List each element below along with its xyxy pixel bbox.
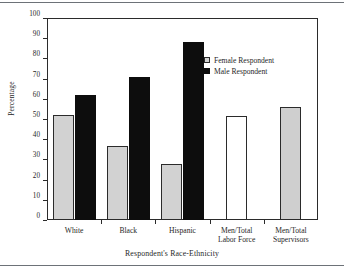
bar-black-male-respondent (129, 77, 150, 220)
y-axis-title: Percentage (7, 49, 16, 149)
legend-item: Male Respondent (204, 66, 274, 76)
figure-bottom-rule (0, 265, 344, 266)
x-axis-title: Respondent's Race-Ethnicity (0, 249, 344, 258)
bar-black-female-respondent (107, 146, 128, 220)
x-axis-tick-mark (210, 220, 211, 224)
legend-label: Male Respondent (214, 67, 267, 76)
figure-top-rule (0, 2, 344, 3)
bar-white-male-respondent (75, 95, 96, 220)
legend-item: Female Respondent (204, 55, 274, 65)
legend-swatch-icon (204, 57, 210, 63)
bar-hispanic-female-respondent (161, 164, 182, 220)
bar-white-female-respondent (53, 115, 74, 220)
bar-chart-figure: 1009080706050403020100 Percentage WhiteB… (0, 0, 344, 274)
bar-men-total-supervisors-ratio (280, 107, 301, 220)
bar-men-total-labor-force-ratio (226, 116, 247, 220)
legend-swatch-icon (204, 68, 210, 74)
legend: Female RespondentMale Respondent (204, 55, 274, 77)
legend-label: Female Respondent (214, 56, 274, 65)
x-axis-tick-mark (155, 220, 156, 224)
x-axis-tick-mark (101, 220, 102, 224)
x-axis-tick-label: Men/Total Supervisors (258, 226, 324, 245)
x-axis-tick-mark (264, 220, 265, 224)
bar-hispanic-male-respondent (183, 42, 204, 220)
bars-layer (47, 18, 318, 220)
